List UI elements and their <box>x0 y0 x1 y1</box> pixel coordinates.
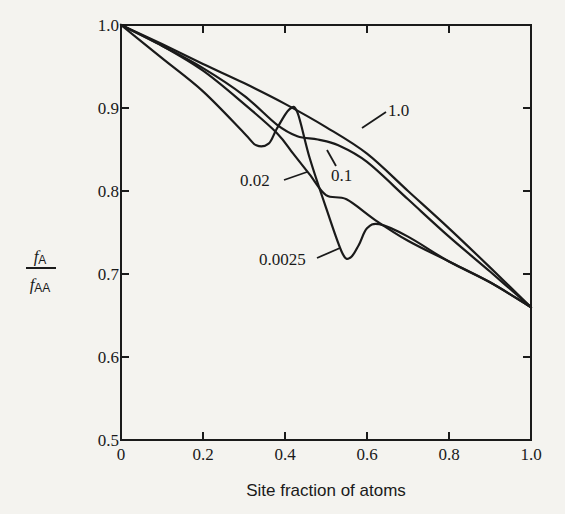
x-tick-label: 0.2 <box>192 445 213 464</box>
curve-label: 1.0 <box>388 101 409 120</box>
curve-0_1 <box>121 25 531 307</box>
y-tick-label: 0.6 <box>98 348 119 367</box>
y-axis-label: fA fAA <box>26 247 56 295</box>
y-tick-label: 0.5 <box>98 431 119 450</box>
annotation-leader <box>362 112 386 128</box>
annotation-leader <box>327 150 336 166</box>
y-label-denominator: fAA <box>30 275 51 295</box>
x-tick-label: 0.8 <box>438 445 459 464</box>
annotation-leader <box>284 172 307 180</box>
x-tick-label: 0.4 <box>274 445 296 464</box>
plot-area <box>121 25 531 440</box>
x-tick-label: 0.6 <box>356 445 377 464</box>
y-tick-label: 0.7 <box>98 265 120 284</box>
y-tick-label: 1.0 <box>98 16 119 35</box>
x-tick-label: 1.0 <box>520 445 541 464</box>
x-axis-label: Site fraction of atoms <box>246 481 406 500</box>
x-axis: 00.20.40.60.81.0 <box>117 25 542 464</box>
curves <box>121 25 531 307</box>
y-axis: 0.50.60.70.80.91.0 <box>98 16 531 450</box>
curve-label: 0.02 <box>240 171 270 190</box>
y-tick-label: 0.8 <box>98 182 119 201</box>
curve-0_0025 <box>121 25 531 307</box>
plot-frame <box>121 25 531 440</box>
curve-label: 0.1 <box>331 166 352 185</box>
annotation-leader <box>317 248 340 258</box>
y-label-numerator: fA <box>34 247 47 267</box>
curve-label: 0.0025 <box>259 250 306 269</box>
y-tick-label: 0.9 <box>98 99 119 118</box>
curve-0_02 <box>121 25 531 307</box>
curve-1_0 <box>121 25 531 307</box>
chart: 00.20.40.60.81.0 0.50.60.70.80.91.0 1.00… <box>0 0 565 514</box>
